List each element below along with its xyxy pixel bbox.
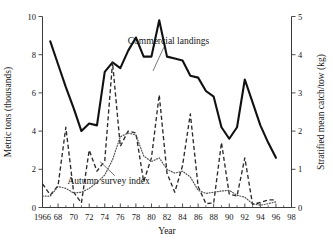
x-tick-label: 98 (287, 212, 296, 222)
x-tick-label: 68 (54, 212, 63, 222)
y-tick-label-right: 3 (298, 88, 302, 98)
x-tick-label: 72 (85, 212, 94, 222)
leader-line-autumn (100, 162, 115, 176)
x-tick-label: 86 (194, 212, 203, 222)
y-tick-label-right: 5 (298, 12, 302, 22)
chart-figure: 1966687072747678808284868890929496980246… (0, 0, 333, 245)
x-tick-label: 90 (225, 212, 234, 222)
y-tick-label-left: 8 (32, 50, 36, 60)
series-line-dotted (43, 133, 276, 205)
x-tick-label: 94 (256, 212, 265, 222)
y-tick-label-left: 2 (32, 164, 36, 174)
y-tick-label-right: 1 (298, 164, 302, 174)
x-tick-label: 88 (209, 212, 218, 222)
x-tick-label: 80 (147, 212, 156, 222)
x-tick-label: 92 (241, 212, 250, 222)
y-tick-label-left: 6 (32, 88, 36, 98)
y-tick-label-left: 4 (32, 126, 37, 136)
x-axis-title: Year (158, 226, 176, 236)
annotation-autumn-survey-index: Autumn survey index (67, 176, 150, 186)
annotation-commercial-landings: Commercial landings (128, 36, 210, 46)
x-tick-label: 84 (178, 212, 187, 222)
y-axis-title-right: Stratified mean catch/tow (kg) (316, 54, 327, 170)
x-tick-label: 76 (116, 212, 125, 222)
y-axis-title-left: Metric tons (thousands) (3, 67, 14, 157)
x-tick-label: 70 (69, 212, 78, 222)
x-tick-label: 74 (101, 212, 110, 222)
x-tick-label: 96 (272, 212, 281, 222)
y-tick-label-right: 0 (298, 203, 302, 213)
x-tick-label: 78 (132, 212, 141, 222)
y-tick-label-left: 0 (32, 203, 36, 213)
y-tick-label-right: 2 (298, 126, 302, 136)
y-tick-label-right: 4 (298, 50, 303, 60)
x-tick-label: 82 (163, 212, 172, 222)
y-tick-label-left: 10 (28, 12, 37, 22)
x-tick-label: 1966 (34, 212, 51, 222)
leader-line-commercial (153, 47, 164, 71)
